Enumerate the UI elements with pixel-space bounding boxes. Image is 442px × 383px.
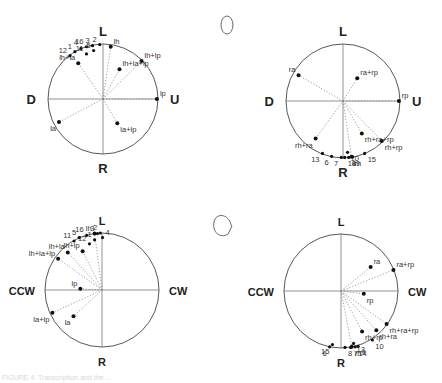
data-point — [93, 238, 96, 241]
data-point — [91, 44, 94, 47]
point-label: 2 — [93, 223, 97, 232]
data-point — [72, 314, 76, 318]
data-point — [72, 239, 75, 242]
point-label: 15 — [368, 155, 376, 164]
data-point — [96, 232, 99, 235]
axis-label-right: CW — [169, 285, 188, 297]
polar-diagram-figure: LRDUlhlh+lplh+la+lplplh+lalala+lp2316411… — [0, 0, 442, 383]
point-label: 2 — [93, 35, 97, 44]
axis-label-right: U — [170, 92, 179, 107]
polar-panel-top-right: LRDUrara+rprprh+ra+rprh+rprh+rarh1013671… — [265, 24, 422, 180]
data-point — [98, 43, 101, 46]
data-point — [351, 155, 354, 158]
vector-ray — [103, 47, 111, 99]
point-label: rp — [367, 296, 374, 305]
ellipse-with-tail-icon — [214, 216, 232, 236]
point-label: 16 — [75, 225, 83, 234]
data-point — [343, 156, 346, 159]
data-point — [391, 268, 395, 272]
data-point — [352, 342, 355, 345]
point-label: lh+la+lp — [29, 249, 55, 258]
data-point — [314, 137, 318, 141]
data-point — [354, 345, 357, 348]
data-point — [68, 54, 71, 57]
axis-label-left: D — [27, 92, 36, 107]
point-label: lh+la — [59, 53, 76, 62]
point-label: lh — [114, 37, 120, 46]
data-point — [346, 151, 349, 154]
point-label: ra — [374, 257, 381, 266]
open-ellipse-icon — [221, 16, 233, 34]
data-point — [78, 287, 82, 291]
data-point — [374, 328, 378, 332]
point-label: 1 — [87, 230, 91, 239]
point-label: 8 — [348, 349, 352, 358]
data-point — [115, 121, 119, 125]
point-label: la — [65, 318, 72, 327]
data-point — [397, 99, 401, 103]
point-label: 7 — [354, 349, 358, 358]
axis-label-top: L — [99, 215, 106, 227]
data-point — [118, 67, 122, 71]
vector-ray — [58, 259, 102, 290]
point-label: 6 — [324, 158, 328, 167]
vector-ray — [343, 101, 362, 133]
vector-ray — [341, 291, 387, 324]
vector-ray — [343, 101, 352, 157]
point-label: ra — [289, 65, 296, 74]
vector-ray — [59, 99, 103, 122]
point-label: 7 — [334, 159, 338, 168]
axis-label-left: CCW — [248, 286, 275, 298]
data-point — [331, 343, 334, 346]
data-point — [360, 131, 364, 135]
point-label: 1 — [68, 42, 72, 51]
data-point — [371, 338, 374, 341]
vector-ray — [341, 270, 393, 291]
point-label: ra+rp — [396, 260, 414, 269]
data-point — [56, 257, 60, 261]
axis-label-top: L — [339, 24, 347, 39]
polar-panel-top-left: LRDUlhlh+lplh+la+lplplh+lalala+lp2316411… — [27, 24, 180, 176]
data-point — [362, 292, 366, 296]
vector-ray — [343, 78, 357, 101]
data-point — [81, 249, 85, 253]
data-point — [57, 120, 61, 124]
point-label: lh+la+lp — [123, 59, 149, 68]
vector-ray — [316, 101, 343, 139]
data-point — [85, 52, 88, 55]
point-label: lp — [71, 279, 77, 288]
data-point — [155, 97, 159, 101]
data-point — [85, 234, 88, 237]
data-point — [76, 61, 80, 65]
data-point — [99, 231, 102, 234]
vector-ray — [299, 75, 343, 101]
vector-ray — [95, 234, 102, 290]
axis-label-left: CCW — [9, 285, 36, 297]
data-point — [92, 49, 95, 52]
point-label: la — [50, 124, 57, 133]
vector-ray — [83, 251, 102, 290]
point-label: 6 — [322, 349, 326, 358]
point-label: 5 — [86, 41, 90, 50]
data-point — [321, 152, 324, 155]
vector-ray — [78, 63, 103, 99]
vector-ray — [74, 290, 103, 316]
axis-label-left: D — [265, 94, 274, 109]
data-point — [355, 76, 359, 80]
axis-label-bottom: R — [98, 161, 108, 176]
vector-ray — [103, 99, 117, 123]
point-label: 11 — [76, 44, 84, 53]
axis-label-top: L — [99, 24, 107, 39]
point-label: rh+ra — [295, 141, 314, 150]
point-label: 10 — [375, 342, 383, 351]
polar-panel-bottom-left: LRCCWCWlhlh+lalh+la+lplh+lplpla+lpla3241… — [9, 215, 188, 368]
vector-ray — [52, 290, 102, 313]
data-point — [357, 345, 360, 348]
point-label: ra+rp — [360, 68, 378, 77]
data-point — [330, 155, 333, 158]
point-label: 12 — [59, 46, 67, 55]
data-point — [109, 45, 113, 49]
point-label: lp — [160, 89, 166, 98]
data-point — [88, 242, 91, 245]
vector-ray — [341, 291, 352, 347]
